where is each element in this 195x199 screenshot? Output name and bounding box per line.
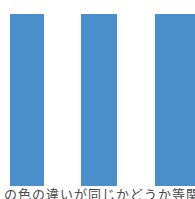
- cropped-top-text: 。。。。。。。。。。: [6, 0, 102, 1]
- bar-2: [81, 14, 117, 186]
- chart-screenshot: 。。。。。。。。。。 の色の違いが同じかどうか等関: [0, 0, 195, 199]
- plot-area: [0, 13, 195, 187]
- cropped-bottom-text-row: の色の違いが同じかどうか等関: [0, 188, 195, 199]
- cropped-bottom-text: の色の違いが同じかどうか等関: [4, 188, 195, 199]
- cropped-top-text-row: 。。。。。。。。。。: [0, 0, 195, 13]
- bar-3: [155, 14, 195, 186]
- bar-1: [10, 14, 44, 186]
